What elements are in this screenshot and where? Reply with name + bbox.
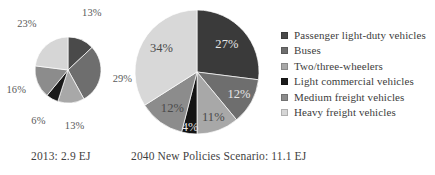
pie-slice-label: 4% xyxy=(182,120,199,134)
caption-2013: 2013: 2.9 EJ xyxy=(31,150,91,162)
pie-slice-label: 34% xyxy=(150,41,173,55)
pie-slice-label: 13% xyxy=(82,7,102,18)
legend-item-label: Two/three-wheelers xyxy=(294,61,383,72)
legend-item-label: Medium freight vehicles xyxy=(294,92,404,103)
pie-chart-figure: 13%29%13%6%16%23% 27%12%11%4%12%34% 2013… xyxy=(0,0,435,175)
pie-slice-label: 12% xyxy=(161,101,184,115)
pie-slices-2013 xyxy=(35,37,101,103)
legend-swatch-icon xyxy=(281,32,288,39)
legend-item[interactable]: Light commercial vehicles xyxy=(281,75,433,89)
pie-slice-label: 6% xyxy=(31,115,45,126)
legend-item[interactable]: Buses xyxy=(281,44,433,58)
pie-chart-2040: 27%12%11%4%12%34% xyxy=(126,0,276,150)
legend-item-label: Heavy freight vehicles xyxy=(294,107,396,118)
legend-item-label: Light commercial vehicles xyxy=(294,76,414,87)
pie-chart-2013: 13%29%13%6%16%23% xyxy=(0,0,145,145)
pie-slices-2040 xyxy=(135,10,259,134)
legend-swatch-icon xyxy=(281,94,288,101)
pie-chart-2040-svg: 27%12%11%4%12%34% xyxy=(126,0,276,150)
legend-swatch-icon xyxy=(281,78,288,85)
legend-swatch-icon xyxy=(281,109,288,116)
chart-legend: Passenger light-duty vehiclesBusesTwo/th… xyxy=(281,28,433,121)
pie-chart-2013-svg: 13%29%13%6%16%23% xyxy=(0,0,145,145)
pie-slice-label: 12% xyxy=(227,87,250,101)
caption-2040: 2040 New Policies Scenario: 11.1 EJ xyxy=(131,150,306,162)
legend-swatch-icon xyxy=(281,47,288,54)
legend-item-label: Passenger light-duty vehicles xyxy=(294,30,426,41)
pie-slice-label: 11% xyxy=(202,110,225,124)
legend-item[interactable]: Two/three-wheelers xyxy=(281,59,433,73)
legend-item[interactable]: Heavy freight vehicles xyxy=(281,106,433,120)
pie-slice xyxy=(35,37,68,70)
legend-item[interactable]: Medium freight vehicles xyxy=(281,90,433,104)
pie-slice-label: 23% xyxy=(17,18,37,29)
legend-swatch-icon xyxy=(281,63,288,70)
legend-item-label: Buses xyxy=(294,45,321,56)
legend-item[interactable]: Passenger light-duty vehicles xyxy=(281,28,433,42)
pie-slice-label: 16% xyxy=(7,84,27,95)
pie-slice-label: 27% xyxy=(215,37,238,51)
pie-slice-label: 13% xyxy=(65,120,85,131)
